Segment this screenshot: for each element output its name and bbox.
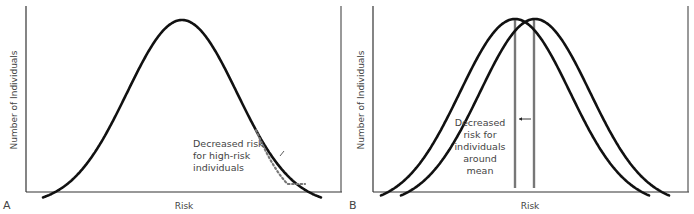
panel-b-annotation-line-2: risk for — [463, 129, 496, 140]
panel-b-letter: B — [349, 199, 357, 212]
panel-b-y-label: Number of Individuals — [356, 50, 366, 149]
panel-b-annotation-line-4: around — [463, 153, 496, 164]
figure: Decreased risk for high-risk individuals… — [0, 0, 694, 214]
panel-b-x-label: Risk — [521, 201, 540, 211]
panel-b-left-arrow — [519, 117, 531, 120]
panel-a-annotation-tick — [280, 151, 284, 156]
panel-a-annotation-line-2: for high-risk — [193, 150, 251, 161]
panel-b-annotation-line-1: Decreased — [455, 117, 506, 128]
panel-b: Decreased risk for individuals around me… — [349, 6, 689, 212]
panel-a: Decreased risk for high-risk individuals… — [3, 6, 342, 212]
panel-b-annotation-line-5: mean — [467, 165, 494, 176]
panel-a-y-label: Number of Individuals — [9, 50, 19, 149]
panel-a-x-label: Risk — [175, 201, 194, 211]
panel-b-annotation-line-3: individuals — [454, 141, 505, 152]
panel-a-letter: A — [3, 199, 11, 212]
panel-a-annotation-line-3: individuals — [193, 162, 244, 173]
panel-a-annotation-line-1: Decreased risk — [193, 138, 264, 149]
panel-a-distribution-curve — [43, 20, 321, 197]
